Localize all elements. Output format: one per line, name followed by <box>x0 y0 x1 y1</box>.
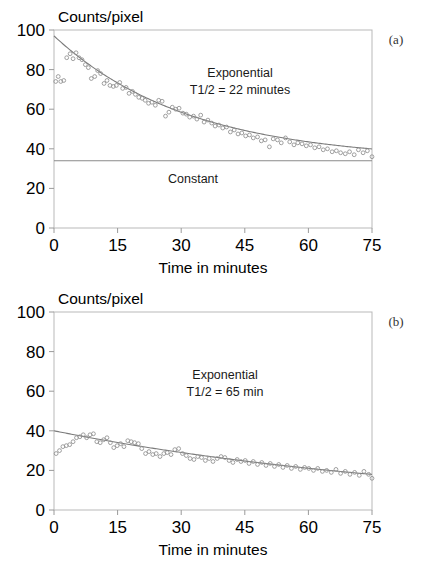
chart-panel-a: 02040608010001530456075ConstantCounts/pi… <box>0 0 423 281</box>
data-point <box>211 460 215 464</box>
x-tick-label: 15 <box>108 236 127 255</box>
y-tick-label: 60 <box>26 382 45 401</box>
data-point <box>296 141 300 145</box>
data-point <box>236 132 240 136</box>
y-tick-label: 0 <box>36 501 45 520</box>
data-point <box>321 148 325 152</box>
x-tick-label: 60 <box>299 518 318 537</box>
data-point <box>184 454 188 458</box>
y-tick-label: 0 <box>36 219 45 238</box>
annotation-line-2: T1/2 = 22 minutes <box>190 83 290 97</box>
data-point <box>199 113 203 117</box>
data-point <box>71 57 75 61</box>
data-point <box>251 136 255 140</box>
data-point <box>122 445 126 449</box>
data-point <box>292 143 296 147</box>
annotation-line-2: T1/2 = 65 min <box>187 385 264 399</box>
data-point <box>213 124 217 128</box>
data-point <box>169 453 173 457</box>
data-point <box>147 450 151 454</box>
panel-a-svg: 02040608010001530456075ConstantCounts/pi… <box>0 0 423 281</box>
data-point <box>65 56 69 60</box>
chart-panel-b: 02040608010001530456075Counts/pixelTime … <box>0 282 423 563</box>
data-point <box>343 152 347 156</box>
data-point <box>288 140 292 144</box>
data-point <box>365 149 369 153</box>
x-tick-label: 0 <box>49 236 58 255</box>
data-point <box>58 449 62 453</box>
data-point <box>164 114 168 118</box>
data-point <box>357 148 361 152</box>
annotation-line-1: Exponential <box>192 368 257 382</box>
fit-curve <box>54 431 372 475</box>
y-tick-label: 100 <box>17 303 45 322</box>
plot-frame <box>54 312 372 510</box>
data-point <box>300 142 304 146</box>
data-point <box>330 150 334 154</box>
data-point <box>279 141 283 145</box>
y-tick-label: 100 <box>17 21 45 40</box>
data-point <box>276 138 280 142</box>
data-point <box>68 52 72 56</box>
data-point <box>173 448 177 452</box>
y-axis-title: Counts/pixel <box>58 8 143 25</box>
x-tick-label: 30 <box>172 236 191 255</box>
data-point <box>158 455 162 459</box>
x-tick-label: 75 <box>363 236 382 255</box>
data-point <box>256 135 260 139</box>
data-point <box>240 131 244 135</box>
data-point <box>177 447 181 451</box>
scatter-series <box>54 432 374 480</box>
constant-label: Constant <box>168 172 219 186</box>
data-point <box>273 465 277 469</box>
data-point <box>203 459 207 463</box>
data-point <box>348 472 352 476</box>
data-point <box>153 103 157 107</box>
x-axis-title: Time in minutes <box>159 541 268 558</box>
annotation-line-1: Exponential <box>207 66 272 80</box>
data-point <box>348 150 352 154</box>
data-point <box>326 147 330 151</box>
data-point <box>290 467 294 471</box>
data-point <box>231 461 235 465</box>
data-point <box>192 458 196 462</box>
data-point <box>248 133 252 137</box>
x-tick-label: 45 <box>235 236 254 255</box>
data-point <box>247 462 251 466</box>
data-point <box>200 456 204 460</box>
y-tick-label: 40 <box>26 422 45 441</box>
data-point <box>232 128 236 132</box>
data-point <box>256 463 260 467</box>
data-point <box>309 143 313 147</box>
x-tick-label: 45 <box>235 518 254 537</box>
data-point <box>54 452 58 456</box>
data-point <box>298 468 302 472</box>
data-point <box>361 151 365 155</box>
data-point <box>334 149 338 153</box>
x-tick-label: 0 <box>49 518 58 537</box>
data-point <box>167 110 171 114</box>
y-axis-title: Counts/pixel <box>58 290 143 307</box>
y-tick-label: 80 <box>26 61 45 80</box>
x-tick-label: 60 <box>299 236 318 255</box>
panel-tag: (a) <box>389 32 403 47</box>
data-point <box>140 447 144 451</box>
data-point <box>188 457 192 461</box>
data-point <box>313 146 317 150</box>
data-point <box>143 98 147 102</box>
data-point <box>221 126 225 130</box>
panel-tag: (b) <box>388 314 403 329</box>
data-point <box>71 440 75 444</box>
y-tick-label: 20 <box>26 179 45 198</box>
data-point <box>207 457 211 461</box>
y-tick-label: 20 <box>26 461 45 480</box>
x-axis-title: Time in minutes <box>159 259 268 276</box>
y-tick-label: 40 <box>26 140 45 159</box>
data-point <box>267 145 271 149</box>
y-tick-label: 60 <box>26 100 45 119</box>
x-tick-label: 75 <box>363 518 382 537</box>
data-point <box>281 466 285 470</box>
data-point <box>244 134 248 138</box>
panel-b-svg: 02040608010001530456075Counts/pixelTime … <box>0 282 423 563</box>
data-point <box>339 471 343 475</box>
